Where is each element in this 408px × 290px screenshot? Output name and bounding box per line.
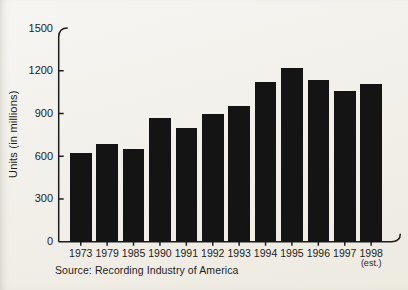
bar-1991 [176,128,198,243]
y-tick-label-1200: 1200 [0,64,53,76]
x-tick-note-estimated: (est.) [349,258,393,268]
y-tick-label-1500: 1500 [0,22,53,34]
y-tick-label-600: 600 [0,150,53,162]
source-note: Source: Recording Industry of America [55,264,238,276]
y-tick-label-900: 900 [0,107,53,119]
chart-page: Units (in millions) 030060090012001500 1… [0,0,408,290]
bar-1995 [281,68,303,243]
bar-1996 [308,80,330,242]
y-tick-label-0: 0 [0,235,53,247]
y-axis-line [59,28,68,242]
bar-1973 [70,153,92,242]
bar-1998 [360,84,382,243]
bar-1992 [202,114,224,242]
bar-1985 [123,149,145,242]
bar-1997 [334,91,356,243]
bar-1994 [255,82,277,242]
bar-1979 [96,144,118,242]
bar-1993 [228,106,250,243]
y-tick-label-300: 300 [0,192,53,204]
bar-1990 [149,118,171,242]
